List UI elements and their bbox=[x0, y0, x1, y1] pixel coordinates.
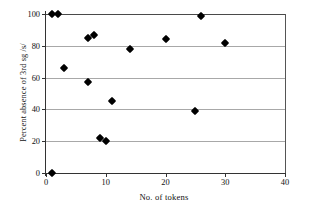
y-axis-title: Percent absence of 3rd sg /s/ bbox=[19, 8, 28, 178]
x-tick-0 bbox=[46, 173, 47, 177]
x-tick-40 bbox=[285, 173, 286, 177]
gridline-y-80 bbox=[46, 46, 285, 47]
x-axis-title: No. of tokens bbox=[40, 192, 288, 202]
y-tick-label-40: 40 bbox=[32, 105, 40, 114]
scatter-chart-figure: Percent absence of 3rd sg /s/ 0204060801… bbox=[0, 0, 309, 212]
y-tick-label-20: 20 bbox=[32, 137, 40, 146]
data-point bbox=[197, 11, 205, 19]
x-tick-10 bbox=[106, 173, 107, 177]
y-tick-20 bbox=[42, 141, 46, 142]
plot-area: 020406080100010203040 bbox=[46, 14, 285, 173]
y-tick-label-80: 80 bbox=[32, 41, 40, 50]
y-axis-line bbox=[45, 11, 46, 176]
y-tick-100 bbox=[42, 14, 46, 15]
data-point bbox=[107, 97, 115, 105]
data-point bbox=[191, 107, 199, 115]
gridline-y-100 bbox=[46, 14, 285, 15]
x-tick-label-30: 30 bbox=[221, 178, 229, 187]
data-point bbox=[54, 10, 62, 18]
x-tick-30 bbox=[225, 173, 226, 177]
x-tick-label-10: 10 bbox=[102, 178, 110, 187]
plot-right-border bbox=[285, 14, 286, 174]
gridline-y-40 bbox=[46, 109, 285, 110]
data-point bbox=[161, 35, 169, 43]
x-tick-20 bbox=[166, 173, 167, 177]
y-tick-40 bbox=[42, 109, 46, 110]
y-tick-80 bbox=[42, 46, 46, 47]
y-tick-label-0: 0 bbox=[36, 169, 40, 178]
gridline-y-20 bbox=[46, 141, 285, 142]
x-tick-label-40: 40 bbox=[281, 178, 289, 187]
x-tick-label-0: 0 bbox=[44, 178, 48, 187]
y-tick-60 bbox=[42, 78, 46, 79]
x-tick-label-20: 20 bbox=[161, 178, 169, 187]
gridline-y-60 bbox=[46, 78, 285, 79]
data-point bbox=[84, 78, 92, 86]
data-point bbox=[48, 169, 56, 177]
data-point bbox=[60, 64, 68, 72]
y-tick-label-100: 100 bbox=[27, 10, 40, 19]
data-point bbox=[102, 137, 110, 145]
y-tick-label-60: 60 bbox=[32, 73, 40, 82]
